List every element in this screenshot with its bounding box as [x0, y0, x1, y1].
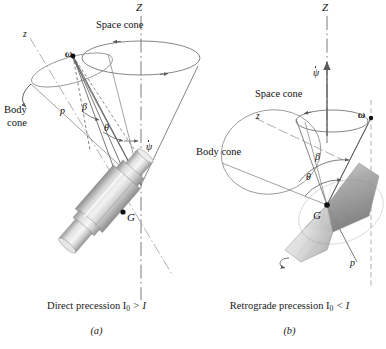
- caption-a-main: Direct precession I: [47, 300, 126, 311]
- caption-b-main: Retrograde precession I: [230, 300, 330, 311]
- axis-Z-label-a: Z: [136, 2, 142, 14]
- center-of-mass-label-b: G: [313, 210, 321, 222]
- space-cone-label-a: Space cone: [96, 19, 144, 30]
- theta-label-b: θ: [306, 172, 311, 183]
- body-cone-label-b: Body cone: [196, 146, 241, 157]
- omega-point-b: [369, 116, 373, 120]
- center-of-mass-label-a: G: [127, 212, 135, 224]
- body-cone-label-a-line1: Body: [4, 104, 27, 115]
- beta-label-b: β: [315, 152, 320, 163]
- axis-z-label-a: z: [23, 30, 27, 40]
- axis-z-label-b: z: [256, 112, 260, 122]
- panel-b-drawing: [193, 0, 386, 349]
- caption-a: Direct precession I0 > I: [0, 300, 193, 313]
- center-of-mass-dot-a: [120, 209, 125, 214]
- theta-label-a: θ: [104, 123, 109, 134]
- caption-a-letter: (a): [0, 325, 193, 336]
- panel-retrograde-precession: Z ψ Space cone z Body cone ω β θ G p Ret…: [193, 0, 386, 349]
- body-spin-arrow-b: [280, 258, 289, 268]
- caption-b-letter: (b): [193, 325, 386, 336]
- axis-Z-label-b: Z: [322, 2, 328, 14]
- psi-dot-label-b: ψ: [313, 68, 319, 79]
- precession-figure: Z z Space cone Body cone ω p β θ ψ G Dir…: [0, 0, 386, 349]
- body-cone-label-a-line2: cone: [7, 117, 27, 128]
- axis-z-line-a: [30, 38, 173, 276]
- omega-label-b: ω: [358, 110, 365, 121]
- caption-a-rel: > I: [130, 300, 146, 311]
- space-cone-rim-arrows-a: [113, 42, 168, 75]
- panel-direct-precession: Z z Space cone Body cone ω p β θ ψ G Dir…: [0, 0, 193, 349]
- center-of-mass-dot-b: [324, 202, 330, 208]
- panel-a-drawing: [0, 0, 193, 349]
- p-label-b: p: [350, 258, 355, 269]
- rotor-body-b: [285, 163, 386, 262]
- omega-label-a: ω: [65, 49, 72, 60]
- caption-b: Retrograde precession I0 < I: [193, 300, 386, 313]
- space-cone-label-b: Space cone: [255, 88, 303, 99]
- axis-z-line-b: [255, 118, 343, 160]
- caption-b-rel: < I: [333, 300, 349, 311]
- psi-dot-label-a: ψ: [146, 142, 152, 153]
- rotor-body-a: [52, 142, 161, 260]
- beta-label-a: β: [82, 102, 87, 113]
- p-label-a: p: [60, 106, 65, 117]
